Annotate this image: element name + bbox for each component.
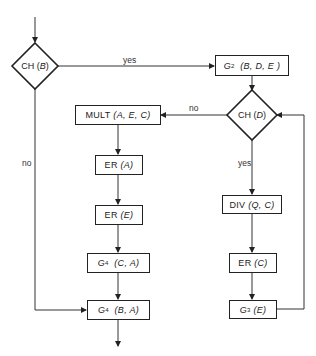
er-e-fn: ER — [105, 210, 118, 220]
g4-ca-fn: G — [98, 258, 105, 268]
div-args: (Q, C) — [248, 200, 274, 210]
process-div: DIV (Q, C) — [222, 195, 282, 214]
g4-ca-sub: 4 — [105, 260, 109, 266]
g4-ba-sub: 4 — [105, 307, 109, 313]
process-er-e: ER (E) — [95, 205, 143, 225]
g2-fn: G — [224, 61, 231, 71]
process-g2: G2 (B, D, E ) — [215, 55, 289, 76]
g4-ca-args: (C, A) — [114, 258, 139, 268]
div-fn: DIV — [229, 200, 245, 210]
er-e-args: (E) — [121, 210, 134, 220]
edge-label-ch-b-yes: yes — [123, 55, 136, 65]
process-er-c: ER (C) — [229, 253, 277, 273]
process-er-a: ER (A) — [95, 155, 143, 175]
decision-ch-b-fn: CH — [21, 61, 34, 71]
g2-args: (B, D, E ) — [240, 61, 280, 71]
g3-args: (E) — [253, 305, 266, 315]
g4-ba-args: (B, A) — [115, 305, 139, 315]
mult-args: (A, E, C) — [113, 110, 150, 120]
decision-ch-d: CH (D) — [227, 107, 277, 123]
edge-label-ch-b-no: no — [22, 158, 31, 168]
er-a-fn: ER — [105, 160, 118, 170]
er-c-args: (C) — [254, 258, 267, 268]
decision-ch-d-arg: D — [257, 110, 264, 120]
g3-fn: G — [240, 305, 247, 315]
edge-label-ch-d-no: no — [189, 103, 198, 113]
g4-ba-fn: G — [98, 305, 105, 315]
process-g4-ba: G4 (B, A) — [87, 300, 150, 320]
process-mult: MULT (A, E, C) — [75, 105, 161, 125]
mult-fn: MULT — [85, 110, 110, 120]
decision-ch-b-arg: B — [40, 61, 46, 71]
edge-label-ch-d-yes: yes — [238, 158, 251, 168]
process-g4-ca: G4 (C, A) — [87, 253, 150, 273]
g3-sub: 3 — [247, 307, 251, 313]
decision-ch-d-fn: CH — [238, 110, 251, 120]
decision-ch-b: CH (B) — [12, 58, 58, 74]
er-c-fn: ER — [238, 258, 251, 268]
g2-sub: 2 — [231, 63, 235, 69]
er-a-args: (A) — [121, 160, 134, 170]
process-g3: G3 (E) — [229, 300, 277, 319]
